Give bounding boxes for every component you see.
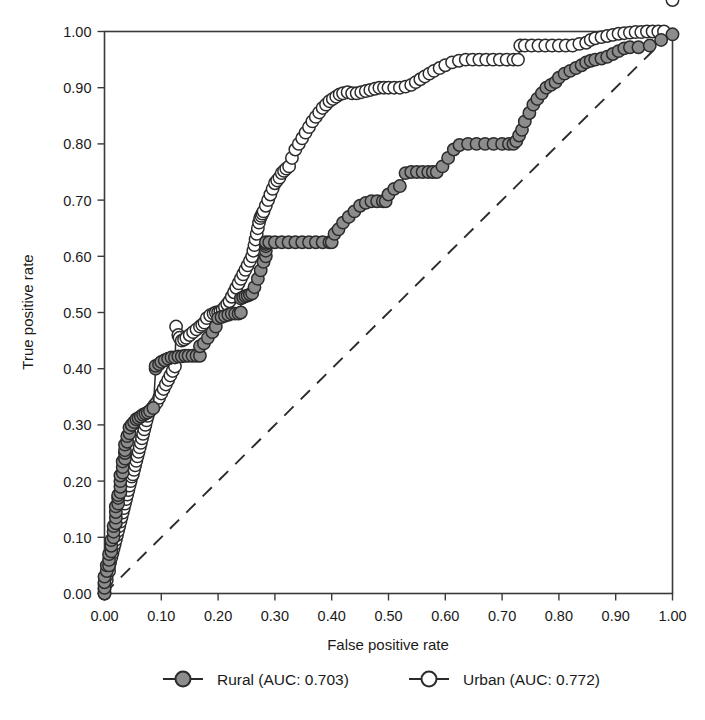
data-point-rural (644, 39, 656, 51)
x-tick-label: 0.50 (374, 608, 402, 624)
x-tick-label: 0.60 (431, 608, 459, 624)
legend-urban-marker-icon (422, 672, 437, 687)
data-point-rural (666, 28, 678, 40)
data-point-rural (235, 306, 247, 318)
y-tick-label: 0.60 (63, 249, 91, 265)
x-tick-label: 0.80 (545, 608, 573, 624)
y-tick-label: 0.20 (63, 474, 91, 490)
y-tick-label: 0.70 (63, 193, 91, 209)
data-point-urban (512, 53, 524, 65)
data-point-urban (666, 0, 678, 6)
x-tick-label: 0.10 (147, 608, 175, 624)
y-tick-label: 0.10 (63, 530, 91, 546)
y-tick-label: 0.00 (63, 586, 91, 602)
y-tick-label: 0.40 (63, 361, 91, 377)
x-tick-label: 0.20 (204, 608, 232, 624)
roc-plot-svg: 0.000.100.200.300.400.500.600.700.800.90… (0, 0, 705, 720)
x-tick-label: 0.70 (488, 608, 516, 624)
x-tick-label: 1.00 (658, 608, 686, 624)
x-tick-label: 0.30 (261, 608, 289, 624)
y-tick-label: 0.50 (63, 305, 91, 321)
data-point-rural (147, 402, 159, 414)
legend-urban-label: Urban (AUC: 0.772) (463, 671, 600, 688)
x-tick-label: 0.90 (602, 608, 630, 624)
y-axis-label: True positive rate (19, 254, 36, 369)
legend-rural-label: Rural (AUC: 0.703) (217, 671, 349, 688)
roc-chart-figure: 0.000.100.200.300.400.500.600.700.800.90… (0, 0, 705, 720)
y-tick-label: 0.90 (63, 80, 91, 96)
data-point-rural (655, 34, 667, 46)
x-tick-label: 0.40 (318, 608, 346, 624)
y-tick-label: 0.30 (63, 417, 91, 433)
data-point-rural (394, 180, 406, 192)
x-tick-label: 0.00 (90, 608, 118, 624)
legend-rural-marker-icon (176, 672, 191, 687)
x-axis-label: False positive rate (327, 636, 449, 653)
y-tick-label: 1.00 (63, 24, 91, 40)
data-point-rural (632, 41, 644, 53)
y-tick-label: 0.80 (63, 136, 91, 152)
